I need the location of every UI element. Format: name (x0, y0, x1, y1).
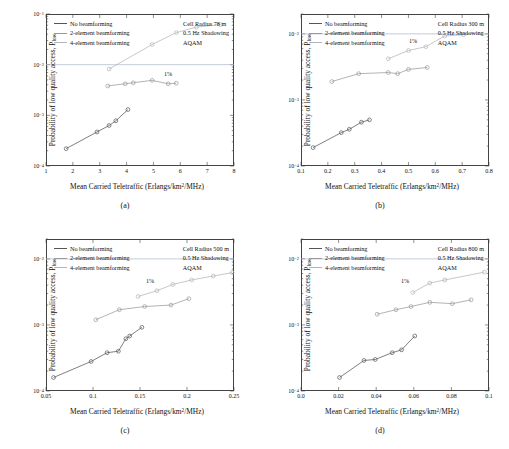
legend-a: No beamforming2-element beamforming4-ele… (54, 19, 130, 47)
y-axis-ticks-b: 10−410−310−2 (277, 14, 299, 166)
plot-area-b: 10−410−310−2 0.10.20.30.40.50.60.70.8 No… (301, 14, 489, 166)
scheme-note: AQAM (183, 38, 229, 47)
subfigure-caption-b: (b) (255, 201, 505, 210)
x-tick-label: 0.8 (485, 168, 493, 174)
one-percent-annotation-a: 1% (164, 70, 172, 77)
one-percent-annotation-b: 1% (409, 37, 417, 44)
legend-item-3: 4-element beamforming (54, 263, 130, 272)
x-tick-label: 0.02 (333, 393, 344, 399)
legend-item-2: 2-element beamforming (54, 28, 130, 37)
subfigure-caption-d: (d) (255, 426, 505, 435)
x-tick-label: 0.7 (458, 168, 466, 174)
chart-panel-a: 10−410−310−210−1 12345678 No beamforming… (0, 0, 250, 224)
x-axis-label-c: Mean Carried Teletraffic (Erlangs/km2/MH… (30, 407, 244, 416)
annotation-notes-c: Cell Radius 500 m 0.5 Hz Shadowing AQAM (183, 244, 229, 272)
x-axis-label-b: Mean Carried Teletraffic (Erlangs/km2/MH… (285, 182, 499, 191)
cell-radius-note: Cell Radius 78 m (183, 19, 229, 28)
annotation-notes-d: Cell Radius 800 m 0.5 Hz Shadowing AQAM (438, 244, 484, 272)
scheme-note: AQAM (438, 38, 484, 47)
x-tick-label: 3 (98, 168, 101, 174)
x-tick-label: 0.3 (351, 168, 359, 174)
legend-item-label: 2-element beamforming (325, 28, 385, 37)
cell-radius-note: Cell Radius 500 m (183, 244, 229, 253)
plot-area-c: 10−410−310−2 0.050.10.150.20.25 No beamf… (46, 239, 234, 391)
legend-item-label: No beamforming (325, 19, 367, 28)
plot-area-d: 10−410−310−2 0.00.020.040.060.080.1 No b… (301, 239, 489, 391)
x-tick-label: 0.05 (41, 393, 52, 399)
x-axis-ticks-a: 12345678 (46, 168, 234, 180)
x-tick-label: 0.6 (432, 168, 440, 174)
subfigure-caption-c: (c) (0, 426, 250, 435)
shadowing-note: 0.5 Hz Shadowing (438, 253, 484, 262)
y-tick-label: 10−3 (288, 322, 299, 329)
legend-item-label: 4-element beamforming (70, 263, 130, 272)
legend-item-label: 2-element beamforming (70, 253, 130, 262)
chart-panel-c: 10−410−310−2 0.050.10.150.20.25 No beamf… (0, 225, 250, 449)
x-tick-label: 6 (179, 168, 182, 174)
legend-item-label: 4-element beamforming (70, 38, 130, 47)
x-axis-ticks-c: 0.050.10.150.20.25 (46, 393, 234, 405)
y-axis-label-b: Probability of low quality access, Plow (301, 14, 315, 166)
y-tick-label: 10−4 (33, 163, 44, 170)
annotation-notes-a: Cell Radius 78 m 0.5 Hz Shadowing AQAM (183, 19, 229, 47)
x-tick-label: 8 (233, 168, 236, 174)
legend-item-1: No beamforming (54, 244, 130, 253)
x-tick-label: 0.25 (229, 393, 240, 399)
legend-item-1: No beamforming (309, 19, 385, 28)
legend-item-1: No beamforming (309, 244, 385, 253)
x-tick-label: 0.08 (446, 393, 457, 399)
x-tick-label: 0.04 (371, 393, 382, 399)
y-tick-label: 10−1 (33, 11, 44, 18)
legend-item-3: 4-element beamforming (54, 38, 130, 47)
x-tick-label: 0.5 (405, 168, 413, 174)
y-axis-label-d: Probability of low quality access, Plow (301, 239, 315, 391)
x-tick-label: 0.15 (135, 393, 146, 399)
legend-item-3: 4-element beamforming (309, 263, 385, 272)
x-tick-label: 0.1 (485, 393, 493, 399)
figure-sheet: 10−410−310−210−1 12345678 No beamforming… (0, 0, 509, 449)
x-tick-label: 7 (206, 168, 209, 174)
scheme-note: AQAM (438, 263, 484, 272)
x-tick-label: 0.06 (409, 393, 420, 399)
x-tick-label: 0.0 (297, 393, 305, 399)
legend-item-label: 2-element beamforming (325, 253, 385, 262)
x-tick-label: 5 (152, 168, 155, 174)
shadowing-note: 0.5 Hz Shadowing (183, 253, 229, 262)
y-axis-ticks-d: 10−410−310−2 (277, 239, 299, 391)
legend-d: No beamforming2-element beamforming4-ele… (309, 244, 385, 272)
x-tick-label: 0.1 (297, 168, 305, 174)
x-tick-label: 1 (45, 168, 48, 174)
shadowing-note: 0.5 Hz Shadowing (183, 28, 229, 37)
chart-panel-d: 10−410−310−2 0.00.020.040.060.080.1 No b… (255, 225, 505, 449)
y-axis-ticks-c: 10−410−310−2 (22, 239, 44, 391)
x-tick-label: 0.2 (324, 168, 332, 174)
y-axis-label-a: Probability of low quality access, Plow (46, 14, 60, 166)
annotation-notes-b: Cell Radius 300 m 0.5 Hz Shadowing AQAM (438, 19, 484, 47)
legend-item-1: No beamforming (54, 19, 130, 28)
legend-item-2: 2-element beamforming (309, 28, 385, 37)
legend-b: No beamforming2-element beamforming4-ele… (309, 19, 385, 47)
legend-item-3: 4-element beamforming (309, 38, 385, 47)
plot-area-a: 10−410−310−210−1 12345678 No beamforming… (46, 14, 234, 166)
y-axis-ticks-a: 10−410−310−210−1 (22, 14, 44, 166)
y-tick-label: 10−3 (33, 322, 44, 329)
y-tick-label: 10−2 (33, 61, 44, 68)
chart-panel-b: 10−410−310−2 0.10.20.30.40.50.60.70.8 No… (255, 0, 505, 224)
x-axis-ticks-b: 0.10.20.30.40.50.60.70.8 (301, 168, 489, 180)
x-axis-label-d: Mean Carried Teletraffic (Erlangs/km2/MH… (285, 407, 499, 416)
y-tick-label: 10−2 (288, 255, 299, 262)
legend-item-label: No beamforming (325, 244, 367, 253)
scheme-note: AQAM (183, 263, 229, 272)
cell-radius-note: Cell Radius 300 m (438, 19, 484, 28)
one-percent-annotation-c: 1% (146, 277, 154, 284)
y-axis-label-c: Probability of low quality access, Plow (46, 239, 60, 391)
subfigure-caption-a: (a) (0, 201, 250, 210)
x-tick-label: 0.4 (378, 168, 386, 174)
x-axis-ticks-d: 0.00.020.040.060.080.1 (301, 393, 489, 405)
cell-radius-note: Cell Radius 800 m (438, 244, 484, 253)
x-tick-label: 0.1 (89, 393, 97, 399)
legend-c: No beamforming2-element beamforming4-ele… (54, 244, 130, 272)
y-tick-label: 10−2 (288, 30, 299, 37)
legend-item-label: 2-element beamforming (70, 28, 130, 37)
legend-item-label: 4-element beamforming (325, 263, 385, 272)
